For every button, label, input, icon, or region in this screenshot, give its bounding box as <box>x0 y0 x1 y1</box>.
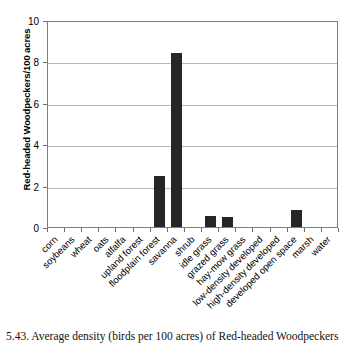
gridline <box>48 63 337 64</box>
y-tick-label: 4 <box>33 140 39 151</box>
gridline <box>48 188 337 189</box>
x-tick-mark <box>184 228 185 232</box>
x-tick-mark <box>47 228 48 232</box>
x-tick-mark <box>98 228 99 232</box>
x-tick-mark <box>115 228 116 232</box>
figure-caption: 5.43. Average density (birds per 100 acr… <box>6 330 342 343</box>
x-tick-mark <box>270 228 271 232</box>
x-tick-mark <box>338 228 339 232</box>
bar <box>154 176 165 227</box>
x-tick-mark <box>287 228 288 232</box>
figure-red-headed-woodpecker-density: Red-headed Woodpeckers/100 acres 0246810… <box>0 0 346 351</box>
bar <box>205 216 216 227</box>
x-tick-mark <box>167 228 168 232</box>
bar <box>291 210 302 227</box>
x-tick-mark <box>133 228 134 232</box>
gridline <box>48 146 337 147</box>
y-tick-label: 8 <box>33 57 39 68</box>
bar <box>171 53 182 227</box>
y-tick-label: 10 <box>28 16 39 27</box>
x-tick-mark <box>321 228 322 232</box>
y-tick-label: 2 <box>33 181 39 192</box>
plot-area <box>47 21 338 228</box>
x-tick-mark <box>150 228 151 232</box>
x-tick-mark <box>218 228 219 232</box>
x-tick-mark <box>252 228 253 232</box>
y-tick-label: 0 <box>33 223 39 234</box>
y-tick-label: 6 <box>33 98 39 109</box>
x-tick-mark <box>201 228 202 232</box>
x-tick-mark <box>304 228 305 232</box>
gridline <box>48 105 337 106</box>
x-tick-mark <box>64 228 65 232</box>
x-tick-mark <box>81 228 82 232</box>
bar <box>222 217 233 227</box>
x-tick-mark <box>235 228 236 232</box>
